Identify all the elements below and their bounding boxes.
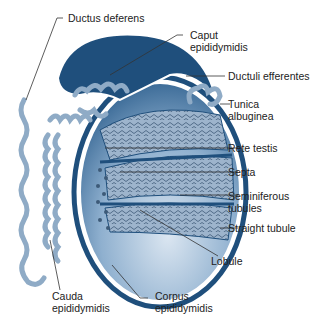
label-line-1: Corpus: [155, 290, 213, 302]
label-rete-testis: Rete testis: [228, 142, 278, 154]
label-tunica-albuginea: Tunica albuginea: [228, 98, 274, 122]
label-cauda-epididymidis: Cauda epididymidis: [52, 290, 110, 314]
label-line-1: Cauda: [52, 290, 110, 302]
label-ductuli-efferentes: Ductuli efferentes: [228, 70, 310, 82]
label-corpus-epididymidis: Corpus epididymidis: [155, 290, 213, 314]
testis-illustration: [0, 0, 323, 318]
label-seminiferous-tubules: Seminiferous tubules: [228, 190, 289, 214]
label-line-1: Tunica: [228, 98, 274, 110]
label-line-2: epididymidis: [155, 302, 213, 314]
label-line-2: epididymidis: [190, 41, 248, 53]
label-lobule: Lobule: [211, 255, 243, 267]
label-septa: Septa: [228, 166, 255, 178]
label-straight-tubule: Straight tubule: [228, 222, 296, 234]
label-line-1: Seminiferous: [228, 190, 289, 202]
label-line-2: tubules: [228, 202, 289, 214]
ductus-deferens-shape: [21, 100, 44, 284]
label-caput-epididymidis: Caput epididymidis: [190, 29, 248, 53]
label-line-2: epididymidis: [52, 302, 110, 314]
label-line-2: albuginea: [228, 110, 274, 122]
label-ductus-deferens: Ductus deferens: [68, 12, 144, 24]
label-line-1: Caput: [190, 29, 248, 41]
testis-body: [74, 77, 246, 307]
